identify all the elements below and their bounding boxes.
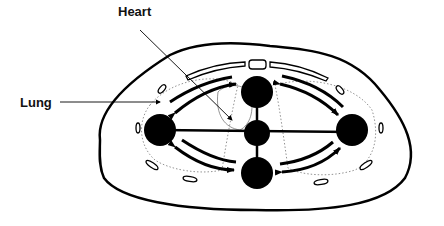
electrode-top (241, 76, 273, 108)
electrode-bottom (241, 157, 273, 189)
electrode-left (144, 114, 176, 146)
thorax-diagram (0, 0, 444, 226)
electrode-right (336, 114, 368, 146)
electrode-center (244, 120, 270, 146)
